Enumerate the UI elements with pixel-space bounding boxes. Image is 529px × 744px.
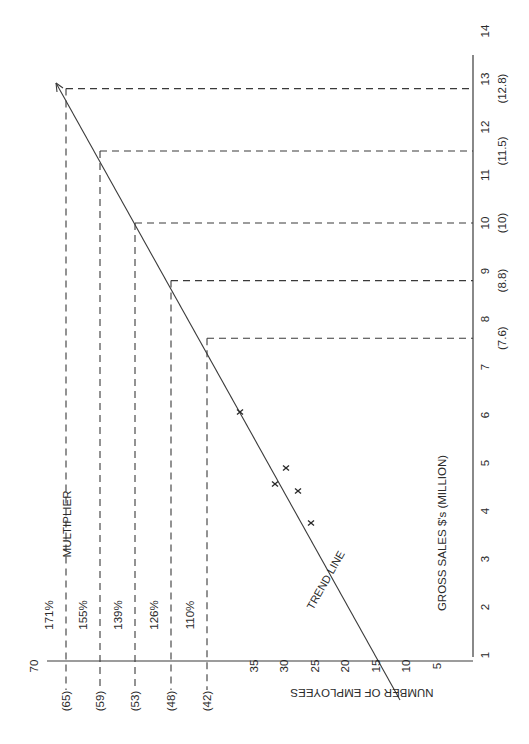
employee-tick-label: 5 (431, 663, 443, 669)
employee-projection-label: (53) (129, 691, 141, 712)
employee-tick-label: 25 (309, 660, 321, 673)
data-point-x-mark (283, 466, 289, 471)
employee-projection-label: (42) (201, 691, 213, 712)
sales-tick-label: 8 (479, 316, 491, 322)
multiplier-value: 126% (148, 600, 160, 629)
sales-projection-label: (11.5) (496, 136, 508, 165)
multiplier-value: 155% (77, 600, 89, 629)
sales-tick-label: 9 (479, 268, 491, 274)
employee-tick-label: 30 (278, 660, 290, 673)
sales-tick-label: 1 (479, 652, 491, 658)
sales-projection-label: (10) (496, 213, 508, 234)
multiplier-value: 171% (43, 600, 55, 629)
sales-tick-label: 12 (479, 121, 491, 134)
employee-projection-label: (59) (94, 691, 106, 712)
sales-tick-label: 5 (479, 460, 491, 466)
sales-axis-title: GROSS SALES $'s (MILLION) (436, 455, 448, 611)
sales-projection-label: (8.8) (496, 269, 508, 293)
sales-tick-label: 13 (479, 73, 491, 86)
multiplier-value: 110% (184, 601, 196, 630)
projection-labels: (7.6)(42)110%(8.8)(48)126%(10)(53)139%(1… (43, 73, 508, 711)
sales-tick-label: 10 (479, 217, 491, 230)
data-point-x-mark (272, 482, 278, 487)
sales-tick-label: 2 (479, 604, 491, 610)
employee-projection-label: (48) (165, 691, 177, 712)
trend-line (56, 83, 400, 700)
employee-tick-label: 20 (339, 660, 351, 673)
projection-lines (66, 89, 473, 690)
sales-tick-labels: 1234567891011121314 (479, 24, 491, 658)
sales-tick-label: 3 (479, 556, 491, 562)
sales-projection-label: (12.8) (496, 73, 508, 103)
employee-tick-label: 10 (400, 660, 412, 673)
employee-tick-label: 15 (370, 660, 382, 673)
trend-line-label: TREND LINE (304, 549, 347, 612)
employees-axis-title: NUMBER OF EMPLOYEES (290, 687, 433, 699)
data-point-x-mark (308, 521, 314, 526)
sales-projection-label: (7.6) (496, 326, 508, 350)
data-point-x-mark (295, 489, 301, 494)
sales-tick-label: 7 (479, 364, 491, 370)
employee-projection-label: (65) (60, 691, 72, 712)
trend-line-path (56, 83, 400, 700)
sales-tick-label: 4 (479, 507, 491, 514)
employee-sales-chart: 1234567891011121314 510152025303570 (7.6… (0, 0, 529, 744)
arrow-head-icon (56, 83, 63, 92)
multiplier-value: 139% (112, 600, 124, 629)
employee-tick-label: 70 (28, 660, 40, 673)
sales-tick-label: 14 (479, 24, 491, 37)
multiplier-label: MULTIPLIER (61, 491, 73, 558)
employee-tick-label: 35 (248, 660, 260, 673)
sales-tick-label: 6 (479, 412, 491, 418)
data-points (237, 410, 314, 526)
sales-tick-label: 11 (479, 169, 491, 181)
